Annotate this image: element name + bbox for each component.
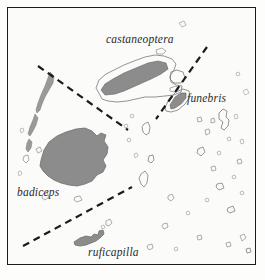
island-kadavu (74, 219, 112, 246)
matuku-islet (147, 244, 153, 250)
yasawa-south (26, 139, 32, 152)
vanua-levu-land (101, 61, 168, 95)
viti-levu-nw-islet (36, 147, 42, 153)
beqa-islet (74, 196, 82, 202)
label-badiceps: badiceps (17, 186, 59, 198)
lau-islet-j (232, 175, 236, 179)
yasawa-north (36, 72, 54, 113)
viti-levu-land (40, 128, 108, 186)
lakeba-islet (197, 147, 205, 156)
yasawa-mid (28, 114, 38, 136)
kadavu-east-islet (101, 225, 105, 229)
label-castaneoptera: castaneoptera (106, 33, 174, 45)
map-figure: castaneoptera funebris badiceps ruficapi… (0, 0, 265, 280)
lau-islet-c (234, 114, 238, 119)
ovalau-islet (142, 122, 150, 135)
lau-islet-b (211, 118, 215, 123)
batiki-islet (127, 138, 131, 142)
lau-islet-i (211, 166, 216, 171)
island-lomaiviti-group (124, 114, 174, 250)
label-ruficapilla: ruficapilla (88, 246, 139, 258)
lau-islet-r (236, 72, 240, 76)
vanua-balavu-islet (219, 109, 229, 130)
ono-i-lau-islet (246, 248, 251, 253)
lau-islet-o (186, 211, 190, 215)
lau-islet-m (226, 242, 231, 247)
fulaga-islet (197, 235, 202, 240)
ringgold-islet (179, 21, 186, 27)
lau-islet-q (243, 89, 249, 95)
vanua-levu-north-islet (156, 48, 166, 54)
lau-islet-l (205, 198, 209, 202)
mamanuca-islet-c (18, 171, 22, 176)
lau-islet-d (205, 129, 210, 135)
gau-islet (139, 171, 148, 187)
lau-islet-p (174, 247, 178, 251)
lau-islet-e (227, 137, 231, 141)
ogea-islet (227, 206, 235, 213)
kadavu-land (74, 230, 104, 246)
moala-islet (168, 194, 174, 201)
lau-islet-n (240, 234, 246, 241)
koro-islet (148, 155, 154, 163)
mamanuca-islet-b (23, 155, 29, 163)
ono-islet (106, 219, 112, 226)
makogai-islet (124, 124, 128, 128)
oneata-islet (216, 183, 224, 190)
northwest-boundary-line (38, 66, 128, 130)
lau-islet-f (240, 139, 244, 144)
wakaya-islet (130, 114, 134, 118)
lau-islet-a (197, 117, 202, 122)
lau-islet-h (237, 159, 242, 164)
lau-islet-g (217, 151, 221, 155)
totoya-islet (162, 223, 168, 229)
lau-islet-k (240, 191, 244, 195)
nairai-islet (134, 153, 138, 158)
mamanuca-islet-a (20, 128, 24, 133)
label-funebris: funebris (187, 92, 226, 104)
